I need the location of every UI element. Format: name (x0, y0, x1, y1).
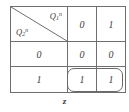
table-row: Q1n Q2n 0 1 (11, 7, 126, 42)
truth-table-grid: Q1n Q2n 0 1 0 0 0 1 1 1 (10, 6, 126, 93)
header-label-q2n: Q2n (16, 27, 28, 37)
header-label-q1n-superscript: n (59, 11, 62, 17)
cell-r1c2: 0 (68, 7, 97, 42)
row-label-r2: 0 (11, 42, 68, 67)
karnaugh-map-figure: Q1n Q2n 0 1 0 0 0 1 1 1 z (0, 0, 129, 112)
diagonal-header-cell: Q1n Q2n (11, 7, 68, 42)
cell-r2c2: 0 (68, 42, 97, 67)
header-label-q1n: Q1n (50, 11, 62, 21)
table-row: 1 1 1 (11, 67, 126, 93)
figure-caption: z (0, 96, 129, 106)
table-row: 0 0 0 (11, 42, 126, 67)
cell-r1c3: 1 (97, 7, 126, 42)
cell-r3c3: 1 (97, 67, 126, 93)
cell-r2c3: 0 (97, 42, 126, 67)
cell-r3c2: 1 (68, 67, 97, 93)
header-label-q2n-superscript: n (25, 27, 28, 33)
row-label-r3: 1 (11, 67, 68, 93)
